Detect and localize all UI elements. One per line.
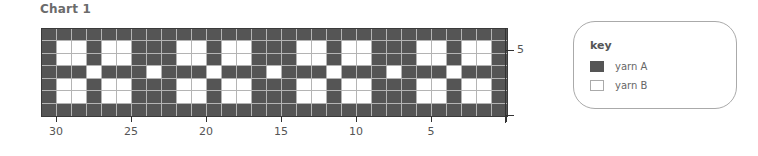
stitch-cell xyxy=(147,41,162,53)
stitch-cell xyxy=(342,66,357,78)
stitch-cell xyxy=(357,104,372,116)
stitch-cell xyxy=(222,104,237,116)
stitch-cell xyxy=(387,54,402,66)
stitch-cell xyxy=(117,66,132,78)
stitch-cell xyxy=(42,54,57,66)
stitch-cell xyxy=(117,29,132,41)
stitch-cell xyxy=(147,91,162,103)
stitch-cell xyxy=(87,29,102,41)
stitch-cell xyxy=(237,41,252,53)
stitch-cell xyxy=(207,29,222,41)
stitch-cell xyxy=(402,91,417,103)
stitch-cell xyxy=(222,66,237,78)
stitch-cell xyxy=(237,66,252,78)
key-box: key yarn A yarn B xyxy=(573,21,737,109)
stitch-cell xyxy=(132,54,147,66)
stitch-cell xyxy=(252,79,267,91)
stitch-cell xyxy=(237,79,252,91)
stitch-cell xyxy=(267,66,282,78)
stitch-cell xyxy=(357,54,372,66)
key-title: key xyxy=(590,39,612,52)
stitch-cell xyxy=(192,66,207,78)
stitch-cell xyxy=(387,91,402,103)
stitch-cell xyxy=(477,79,492,91)
stitch-cell xyxy=(57,66,72,78)
stitch-cell xyxy=(252,29,267,41)
stitch-cell xyxy=(162,66,177,78)
x-tick-label: 15 xyxy=(274,125,288,138)
stitch-cell xyxy=(222,54,237,66)
stitch-cell xyxy=(447,41,462,53)
stitch-cell xyxy=(42,66,57,78)
stitch-cell xyxy=(57,91,72,103)
stitch-cell xyxy=(117,54,132,66)
stitch-cell xyxy=(357,66,372,78)
stitch-cell xyxy=(387,41,402,53)
stitch-cell xyxy=(207,79,222,91)
stitch-cell xyxy=(417,91,432,103)
stitch-cell xyxy=(447,29,462,41)
stitch-cell xyxy=(162,79,177,91)
stitch-cell xyxy=(72,54,87,66)
stitch-cell xyxy=(132,79,147,91)
stitch-cell xyxy=(342,29,357,41)
yarn-b-swatch xyxy=(590,80,604,91)
x-tick xyxy=(206,116,207,122)
stitch-cell xyxy=(342,91,357,103)
stitch-cell xyxy=(192,54,207,66)
stitch-cell xyxy=(432,79,447,91)
stitch-cell xyxy=(72,66,87,78)
stitch-cell xyxy=(462,54,477,66)
x-tick xyxy=(506,116,507,122)
stitch-cell xyxy=(222,41,237,53)
y-tick-5 xyxy=(506,50,514,51)
stitch-cell xyxy=(102,41,117,53)
stitch-cell xyxy=(42,104,57,116)
chart-grid-container xyxy=(41,28,508,117)
stitch-cell xyxy=(282,91,297,103)
stitch-cell xyxy=(267,104,282,116)
stitch-cell xyxy=(447,104,462,116)
stitch-cell xyxy=(372,29,387,41)
stitch-cell xyxy=(132,29,147,41)
stitch-cell xyxy=(42,79,57,91)
stitch-cell xyxy=(102,104,117,116)
stitch-cell xyxy=(207,54,222,66)
stitch-cell xyxy=(327,54,342,66)
stitch-cell xyxy=(162,54,177,66)
stitch-cell xyxy=(282,104,297,116)
x-tick-label: 5 xyxy=(428,125,435,138)
right-axis-line xyxy=(505,28,506,123)
x-tick-label: 25 xyxy=(124,125,138,138)
x-tick xyxy=(356,116,357,122)
stitch-cell xyxy=(297,104,312,116)
stitch-cell xyxy=(327,91,342,103)
stitch-cell xyxy=(192,29,207,41)
stitch-cell xyxy=(342,104,357,116)
stitch-cell xyxy=(42,41,57,53)
stitch-cell xyxy=(432,54,447,66)
stitch-cell xyxy=(282,66,297,78)
stitch-cell xyxy=(372,104,387,116)
stitch-cell xyxy=(57,54,72,66)
y-tick-0 xyxy=(506,115,514,116)
stitch-cell xyxy=(357,91,372,103)
stitch-cell xyxy=(312,41,327,53)
stitch-cell xyxy=(87,41,102,53)
stitch-cell xyxy=(312,29,327,41)
stitch-cell xyxy=(102,91,117,103)
stitch-cell xyxy=(417,104,432,116)
stitch-cell xyxy=(177,104,192,116)
stitch-cell xyxy=(207,41,222,53)
stitch-cell xyxy=(462,29,477,41)
stitch-cell xyxy=(237,91,252,103)
stitch-cell xyxy=(282,79,297,91)
stitch-cell xyxy=(132,66,147,78)
stitch-cell xyxy=(252,66,267,78)
stitch-cell xyxy=(117,41,132,53)
stitch-cell xyxy=(267,91,282,103)
stitch-cell xyxy=(417,29,432,41)
stitch-cell xyxy=(87,66,102,78)
stitch-cell xyxy=(57,79,72,91)
stitch-cell xyxy=(372,54,387,66)
